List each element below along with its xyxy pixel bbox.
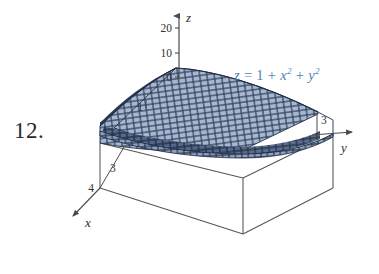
equation-y-term: y (308, 67, 315, 83)
box-edge-base-front-right (243, 188, 333, 234)
x-tick-label-4: 4 (88, 182, 94, 194)
x-axis-label: x (84, 215, 91, 230)
equation-x-term: x (280, 67, 287, 83)
equation-y-exponent: 2 (315, 66, 320, 76)
z-tick-label-1: 1 (137, 101, 143, 113)
surface-plot-graphic: 20 10 0 1 z 3 y 3 4 x (0, 0, 379, 274)
box-edge-base-front-left (100, 188, 243, 234)
x-axis-group: 3 4 x (73, 147, 124, 230)
z-tick-label-0: 0 (166, 71, 172, 83)
equation-plus-2: + (296, 67, 304, 83)
x-tick-label-3: 3 (110, 162, 116, 174)
x-axis-line (73, 188, 100, 216)
equation-annotation: z = 1 + x2 + y2 (234, 66, 320, 84)
y-axis-label: y (339, 140, 347, 155)
z-tick-label-20: 20 (161, 22, 173, 34)
y-tick-label-3: 3 (321, 114, 327, 126)
equation-constant: 1 (256, 67, 264, 83)
figure-root: 12. (0, 0, 379, 274)
z-tick-label-10: 10 (161, 47, 173, 59)
z-axis-label: z (185, 10, 191, 25)
